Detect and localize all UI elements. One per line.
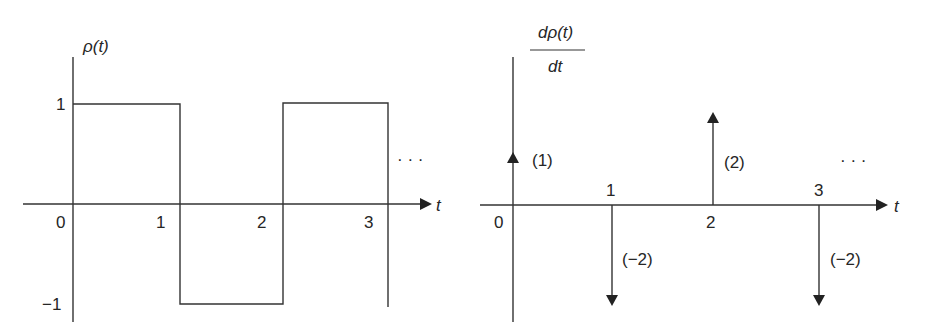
impulse-up-arrow-icon <box>507 152 519 163</box>
x-tick-3: 3 <box>814 181 823 200</box>
y-axis-label: ρ(t) <box>82 37 109 56</box>
square-wave-trace <box>73 103 388 307</box>
x-tick-3: 3 <box>364 213 373 232</box>
y-axis-label-numerator: dρ(t) <box>538 23 573 42</box>
y-tick-1: 1 <box>56 95 65 114</box>
impulse-weight-label-t1: (−2) <box>622 250 653 269</box>
impulse-down-arrow-icon <box>813 295 825 306</box>
x-axis-arrow-icon <box>876 199 888 211</box>
diagram-canvas: ρ(t) t 1 −1 0 1 2 3 · · · dρ(t) dt t 0 1 <box>0 0 930 335</box>
impulse-weight-label-t0: (1) <box>532 151 553 170</box>
x-tick-1: 1 <box>156 213 165 232</box>
impulse-down-arrow-icon <box>606 295 618 306</box>
x-tick-0: 0 <box>494 213 503 232</box>
x-axis-label: t <box>436 196 442 215</box>
y-tick-neg1: −1 <box>42 295 61 314</box>
x-tick-1: 1 <box>606 181 615 200</box>
continuation-ellipsis: · · · <box>397 150 423 169</box>
derivative-impulse-plot: dρ(t) dt t 0 1 2 3 (1) (−2) (2) (−2) · ·… <box>480 23 900 322</box>
impulse-up-arrow-icon <box>707 112 719 123</box>
x-tick-2: 2 <box>257 213 266 232</box>
x-axis-arrow-icon <box>420 198 432 210</box>
square-wave-plot: ρ(t) t 1 −1 0 1 2 3 · · · <box>23 37 442 322</box>
continuation-ellipsis: · · · <box>840 151 866 170</box>
x-tick-0: 0 <box>56 213 65 232</box>
y-axis-label-denominator: dt <box>548 57 563 76</box>
x-axis-label: t <box>894 197 900 216</box>
impulse-weight-label-t2: (2) <box>724 153 745 172</box>
impulse-weight-label-t3: (−2) <box>830 250 861 269</box>
x-tick-2: 2 <box>706 213 715 232</box>
